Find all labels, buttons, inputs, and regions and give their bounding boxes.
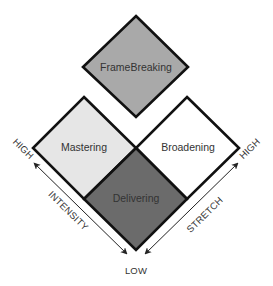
stretch-high-label: HIGH [237,136,262,161]
stretch-axis-label: STRETCH [184,194,225,234]
framebreaking-label: FrameBreaking [100,61,172,73]
intensity-high-label: HIGH [11,136,36,161]
quadrant-framebreaking: FrameBreaking [83,16,188,117]
low-label: LOW [125,265,147,276]
delivering-label: Delivering [113,192,160,204]
broadening-label: Broadening [161,141,215,153]
diagram-canvas: FrameBreaking Mastering Broadening Deliv… [0,0,273,286]
mastering-label: Mastering [61,141,107,153]
